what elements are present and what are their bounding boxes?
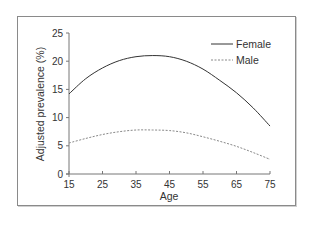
y-tick-label: 10: [52, 112, 64, 123]
x-tick-label: 75: [264, 179, 276, 190]
y-tick-label: 20: [52, 56, 64, 67]
x-tick-label: 25: [97, 179, 109, 190]
series-male-line: [69, 130, 270, 159]
x-tick-label: 15: [63, 179, 75, 190]
legend-male-label: Male: [236, 54, 259, 66]
x-tick-label: 55: [197, 179, 209, 190]
y-tick-label: 0: [57, 169, 63, 180]
series-female-line: [69, 56, 270, 127]
series-lines: [69, 56, 270, 160]
y-tick-label: 5: [57, 140, 63, 151]
legend-female-label: Female: [236, 38, 271, 50]
y-axis-title: Adjusted prevalence (%): [34, 47, 46, 161]
x-axis: 15253545556575: [63, 171, 276, 190]
x-tick-label: 65: [231, 179, 243, 190]
legend: Female Male: [211, 38, 271, 66]
x-tick-label: 35: [130, 179, 142, 190]
y-axis: 0510152025: [52, 28, 69, 180]
line-chart: 0510152025 15253545556575 Female Male Ag…: [0, 0, 313, 228]
x-tick-label: 45: [164, 179, 176, 190]
y-tick-label: 25: [52, 28, 64, 39]
x-axis-title: Age: [160, 190, 179, 202]
y-tick-label: 15: [52, 84, 64, 95]
